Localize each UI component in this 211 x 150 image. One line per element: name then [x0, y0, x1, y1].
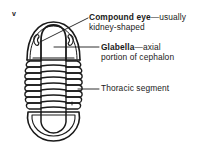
compound-eye-icon	[34, 35, 74, 46]
thorax	[25, 60, 82, 112]
term-glabella: Glabella	[101, 42, 134, 52]
cephalon	[27, 22, 80, 60]
label-compound-eye: Compound eye—usually kidney-shaped	[89, 12, 186, 32]
glabella	[41, 25, 66, 60]
desc-compound-eye-1: usually	[159, 12, 186, 22]
pygidium	[28, 112, 80, 141]
label-glabella: Glabella—axial portion of cephalon	[101, 42, 174, 62]
separator: —	[134, 42, 142, 52]
label-thoracic-segment: Thoracic segment	[101, 83, 169, 93]
desc-compound-eye-2: kidney-shaped	[89, 22, 186, 32]
desc-glabella-2: portion of cephalon	[101, 52, 174, 62]
separator: —	[151, 12, 159, 22]
desc-thoracic-segment: Thoracic segment	[101, 83, 169, 93]
desc-glabella-1: axial	[143, 42, 161, 52]
leader-compound-eye	[40, 18, 88, 42]
term-compound-eye: Compound eye	[89, 12, 151, 22]
